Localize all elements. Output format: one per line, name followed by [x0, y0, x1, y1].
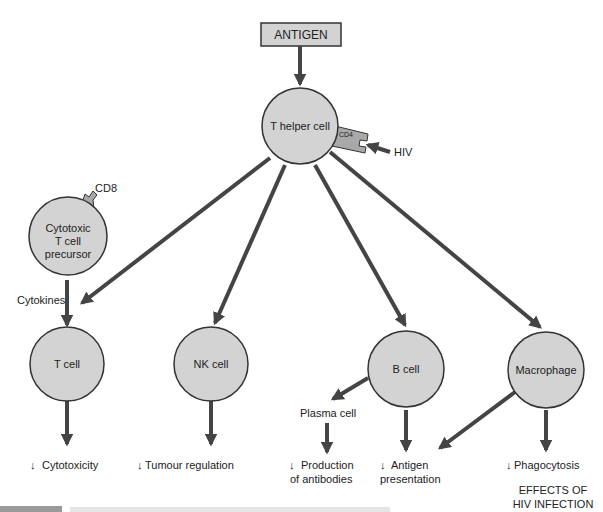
arrow-bcell-plasma	[333, 378, 368, 399]
cytotoxic-label-3: precursor	[45, 248, 92, 260]
nk-cell-label: NK cell	[194, 358, 229, 370]
title-line-2: HIV INFECTION	[513, 498, 594, 510]
cd8-label: CD8	[95, 182, 117, 194]
title-line-1: EFFECTS OF	[519, 484, 588, 496]
plasma-cell-label: Plasma cell	[300, 407, 356, 419]
effect-arrow-3: ↓	[289, 459, 295, 471]
effect-production-2: of antibodies	[290, 473, 353, 485]
effect-arrow-4: ↓	[380, 459, 386, 471]
effect-arrow-2: ↓	[137, 459, 143, 471]
arrow-hiv-cd4	[368, 145, 390, 152]
arrow-thelper-bcell	[315, 165, 405, 325]
cytokines-label: Cytokines	[17, 294, 66, 306]
effect-antigen-1: Antigen	[391, 459, 428, 471]
effect-cytotoxicity: Cytotoxicity	[42, 459, 99, 471]
arrow-thelper-nk	[215, 165, 285, 323]
antigen-label: ANTIGEN	[274, 28, 327, 42]
figure-caption-tag	[0, 506, 62, 512]
cytotoxic-label-1: Cytotoxic	[45, 222, 91, 234]
figure-caption-text	[70, 507, 390, 512]
cd4-label: CD4	[339, 131, 353, 138]
effect-tumour: Tumour regulation	[145, 459, 234, 471]
t-cell-label: T cell	[54, 358, 80, 370]
hiv-label: HIV	[394, 146, 413, 158]
hiv-effects-diagram: ANTIGEN CD4 CD8 T helper cell Cytotoxic …	[0, 0, 603, 512]
arrow-thelper-tcell	[82, 158, 270, 303]
effect-arrow-1: ↓	[30, 459, 36, 471]
b-cell-label: B cell	[393, 363, 420, 375]
cytotoxic-label-2: T cell	[55, 235, 81, 247]
arrow-macrophage-effect	[440, 392, 515, 448]
effect-arrow-5: ↓	[506, 459, 512, 471]
t-helper-label: T helper cell	[270, 120, 330, 132]
macrophage-label: Macrophage	[515, 364, 576, 376]
effect-production-1: Production	[301, 459, 354, 471]
effect-antigen-2: presentation	[380, 473, 441, 485]
arrow-thelper-macrophage	[330, 152, 540, 327]
effect-phagocytosis: Phagocytosis	[514, 459, 580, 471]
